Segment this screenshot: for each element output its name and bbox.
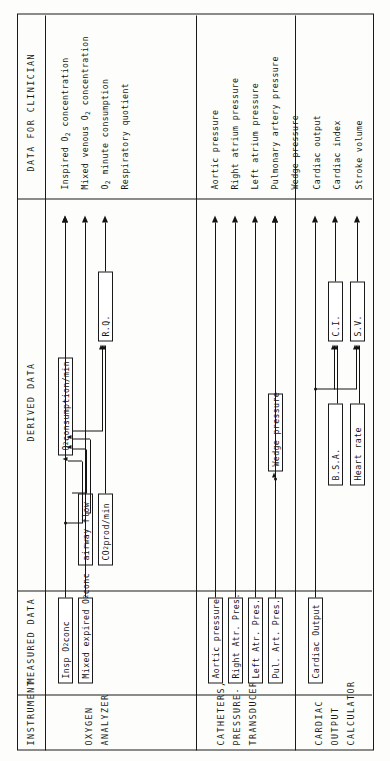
output-cardiac-output: Cardiac output xyxy=(312,114,322,189)
wire-insp-o2-up xyxy=(68,460,82,461)
arrow-head-respiratory-quotient xyxy=(102,215,108,222)
arrow-head-cardiac-output xyxy=(312,215,318,222)
figure-canvas: INSTRUMENT MEASURED DATA DERIVED DATA DA… xyxy=(0,0,390,761)
arrow-head-right-atrium-pressure xyxy=(232,215,238,222)
box-left-atr-pres[interactable]: Left Atr. Pres. xyxy=(248,597,263,683)
wire-insp-o2-down xyxy=(65,522,82,523)
arrow-line-cardiac-index xyxy=(335,222,336,281)
box-insp-o2-conc[interactable]: Insp O2 conc xyxy=(58,597,73,683)
box-sv[interactable]: S.V. xyxy=(350,281,365,341)
wire-bsa-to-ci xyxy=(337,345,338,403)
box-right-atr-pres[interactable]: Right Atr. Pres. xyxy=(228,597,243,683)
instrument-catheters-line3: TRANSDUCERS xyxy=(248,674,258,745)
instrument-oxygen-analyzer-line1: OXYGEN xyxy=(84,706,94,745)
arrow-line-aortic-pressure xyxy=(215,222,216,597)
wire-airway-flow-across xyxy=(86,449,87,493)
box-mixed-expired-o2-conc[interactable]: Mixed expired O2 conc xyxy=(78,597,93,683)
box-rq[interactable]: R.Q. xyxy=(98,271,113,341)
arrow-head-stroke-volume xyxy=(354,215,360,222)
column-header-instrument: INSTRUMENT xyxy=(26,679,36,745)
output-right-atrium-pressure: Right atrium pressure xyxy=(230,77,240,189)
arrow-head-mixed-venous-o2 xyxy=(82,215,88,222)
output-aortic-pressure: Aortic pressure xyxy=(210,109,220,189)
arrow-head-bsa-to-ci xyxy=(334,344,338,349)
output-inspired-o2-concentration: Inspired O2 concentration xyxy=(60,57,72,189)
arrow-head-airway-flow-to-consumption xyxy=(66,445,71,449)
instrument-cardiac-line3: CALCULATOR xyxy=(346,680,356,745)
wire-mixed-expired-riser xyxy=(72,438,90,439)
arrow-head-left-atrium-pressure xyxy=(252,215,258,222)
wire-co-to-sv xyxy=(356,345,357,389)
output-pulmonary-artery-pressure: Pulmonary artery pressure xyxy=(270,56,280,189)
output-left-atrium-pressure: Left atrium pressure xyxy=(250,82,260,189)
wire-mixed-expired-across xyxy=(90,439,91,513)
arrow-line-o2-minute-consumption xyxy=(65,222,66,357)
group-rule-oxygen-catheters xyxy=(196,15,197,750)
divider-measured-derived xyxy=(17,590,372,591)
arrow-line-stroke-volume xyxy=(357,222,358,281)
divider-derived-clinician xyxy=(17,198,372,199)
arrow-head-insp-o2-to-consumption xyxy=(62,457,67,461)
arrow-head-mixed-expired-to-consumption xyxy=(66,435,71,439)
junction-dot-pul-art xyxy=(274,478,277,481)
wire-co2-to-rq xyxy=(105,345,106,493)
output-mixed-venous-o2-concentration: Mixed venous O2 concentration xyxy=(80,36,92,190)
output-respiratory-quotient: Respiratory quotient xyxy=(120,82,130,189)
arrow-line-left-atrium-pressure xyxy=(255,222,256,597)
arrow-line-mixed-venous-o2 xyxy=(85,222,86,597)
wire-consumption-down-to-rq xyxy=(73,430,102,431)
wire-co-down xyxy=(315,388,334,389)
instrument-cardiac-line2: OUTPUT xyxy=(330,706,340,745)
wire-heart-rate-to-sv xyxy=(359,345,360,403)
instrument-catheters-line2: PRESSURE- xyxy=(232,687,242,745)
arrow-head-consumption-to-rq xyxy=(99,344,103,349)
arrow-line-cardiac-output xyxy=(315,222,316,597)
box-ci[interactable]: C.I. xyxy=(328,281,343,341)
arrow-line-respiratory-quotient xyxy=(105,222,106,271)
arrow-head-wedge-pressure xyxy=(272,215,278,222)
header-rule xyxy=(45,15,46,750)
flowchart: INSTRUMENT MEASURED DATA DERIVED DATA DA… xyxy=(0,0,390,761)
wire-airway-flow-riser xyxy=(72,448,86,449)
arrow-head-o2-minute-consumption xyxy=(62,215,68,222)
arrow-line-right-atrium-pressure xyxy=(235,222,236,597)
instrument-catheters-line1: CATHETERS, xyxy=(216,680,226,745)
box-pul-art-pres[interactable]: Pul. Art. Pres. xyxy=(268,597,283,683)
output-cardiac-index: Cardiac index xyxy=(332,120,342,189)
output-o2-minute-consumption: O2 minute consumption xyxy=(100,78,112,189)
box-heart-rate[interactable]: Heart rate xyxy=(350,403,365,485)
column-header-derived: DERIVED DATA xyxy=(26,362,36,441)
box-cardiac-output[interactable]: Cardiac Output xyxy=(308,597,323,683)
column-header-measured: MEASURED DATA xyxy=(26,597,36,683)
arrow-head-aortic-pressure xyxy=(212,215,218,222)
wire-co-to-ci xyxy=(334,345,335,389)
box-aortic-pressure[interactable]: Aortic pressure xyxy=(208,597,223,683)
instrument-oxygen-analyzer-line2: ANALYZER xyxy=(100,693,110,745)
arrow-head-cardiac-index xyxy=(332,215,338,222)
arrow-head-pul-art-to-wedge xyxy=(272,472,276,477)
box-co2-prod-min[interactable]: CO2 prod/min xyxy=(98,493,113,565)
wire-pul-art-to-wedge xyxy=(275,471,276,597)
box-bsa[interactable]: B.S.A. xyxy=(328,403,343,485)
output-stroke-volume: Stroke volume xyxy=(354,120,364,189)
column-header-clinician: DATA FOR CLINICIAN xyxy=(26,52,36,171)
junction-dot-insp-o2 xyxy=(64,522,67,525)
instrument-cardiac-line1: CARDIAC xyxy=(314,700,324,745)
arrow-head-heart-rate-to-sv xyxy=(356,344,360,349)
output-wedge-pressure: Wedge pressure xyxy=(290,114,300,189)
wire-consumption-to-rq xyxy=(102,345,103,431)
arrow-line-wedge-pressure xyxy=(275,222,276,393)
wire-airway-flow-up xyxy=(72,492,86,493)
divider-instrument-measured xyxy=(17,694,372,695)
